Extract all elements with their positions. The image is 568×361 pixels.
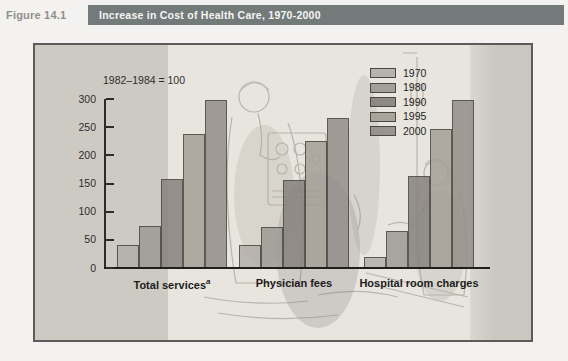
legend-swatch-1995 <box>370 112 396 122</box>
bar-1990-total-services <box>161 179 183 268</box>
legend-swatch-1970 <box>370 68 396 78</box>
legend-label-1970: 1970 <box>403 67 426 79</box>
legend-label-1980: 1980 <box>403 81 426 93</box>
y-tick-label: 150 <box>64 177 96 189</box>
figure-title: Increase in Cost of Health Care, 1970-20… <box>99 9 321 21</box>
bar-1980-physician-fees <box>261 227 283 268</box>
bar-1980-hospital-room-charges <box>386 231 408 268</box>
y-tick-label: 50 <box>64 233 96 245</box>
y-tick <box>106 211 114 213</box>
bar-1995-physician-fees <box>305 141 327 268</box>
legend-label-1995: 1995 <box>403 110 426 122</box>
y-tick-label: 300 <box>64 93 96 105</box>
legend-swatch-1980 <box>370 83 396 93</box>
category-label-hospital-room-charges: Hospital room charges <box>339 277 499 289</box>
legend-swatch-2000 <box>370 126 396 136</box>
index-note: 1982–1984 = 100 <box>103 74 223 86</box>
y-tick <box>106 239 114 241</box>
y-tick <box>106 154 114 156</box>
bar-2000-total-services <box>205 100 227 268</box>
y-tick-label: 100 <box>64 205 96 217</box>
footnote-marker: a <box>206 277 210 286</box>
y-tick-label: 250 <box>64 121 96 133</box>
category-label-total-services: Total servicesa <box>107 277 237 291</box>
x-axis <box>104 267 490 269</box>
bar-2000-physician-fees <box>327 118 349 268</box>
bar-2000-hospital-room-charges <box>452 100 474 268</box>
bar-1990-hospital-room-charges <box>408 176 430 268</box>
bar-1990-physician-fees <box>283 180 305 268</box>
legend-label-2000: 2000 <box>403 125 426 137</box>
bar-1970-physician-fees <box>239 245 261 268</box>
figure-title-bar: Increase in Cost of Health Care, 1970-20… <box>88 5 564 25</box>
y-tick <box>106 98 114 100</box>
y-tick-label: 0 <box>64 262 96 274</box>
figure-label: Figure 14.1 <box>6 9 86 23</box>
y-tick-label: 200 <box>64 149 96 161</box>
legend-swatch-1990 <box>370 97 396 107</box>
bar-1980-total-services <box>139 226 161 268</box>
bar-1970-total-services <box>117 245 139 268</box>
legend-label-1990: 1990 <box>403 96 426 108</box>
panel-right-band <box>470 45 531 340</box>
page: { "header": { "figure_label": "Figure 14… <box>0 0 568 361</box>
y-tick <box>106 183 114 185</box>
bar-1995-hospital-room-charges <box>430 129 452 268</box>
y-tick <box>106 267 114 269</box>
y-tick <box>106 126 114 128</box>
bar-1995-total-services <box>183 134 205 268</box>
